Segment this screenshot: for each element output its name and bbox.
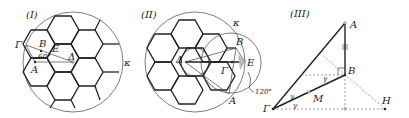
label-e: E <box>246 57 255 68</box>
figure-2-title: (II) <box>141 9 157 20</box>
label-b: B <box>347 65 355 76</box>
figure-1-title: (I) <box>26 9 38 20</box>
construction-lines <box>185 48 254 94</box>
figure-1: (I) Γ B E 60° Δ <box>14 9 131 112</box>
label-gamma: Γ <box>14 39 23 50</box>
label-kappa: κ <box>232 17 240 28</box>
figure-3: (III) A B Γ M H γ γ γ <box>262 8 391 114</box>
label-h: H <box>381 95 391 106</box>
label-gamma-angle-2: γ <box>290 93 295 101</box>
figure-3-title: (III) <box>290 8 310 19</box>
label-a: A <box>30 64 38 75</box>
label-b: B <box>235 36 243 47</box>
figure-2: (II) κ B Δ E Γ A 120° <box>141 9 272 112</box>
label-gamma: Γ <box>220 65 229 76</box>
label-a: A <box>228 95 236 106</box>
label-kappa: κ <box>123 57 131 68</box>
label-angle-120: 120° <box>255 88 272 96</box>
triangle-construction <box>272 22 387 111</box>
label-delta: Δ <box>67 51 75 62</box>
label-b: B <box>38 38 46 49</box>
diagram-canvas: (I) Γ B E 60° Δ <box>0 0 409 118</box>
label-gamma-angle-1: γ <box>323 75 328 83</box>
label-gamma-vertex: Γ <box>262 103 271 114</box>
label-m: M <box>312 93 324 104</box>
label-angle-60: 60° <box>38 53 50 61</box>
label-e: E <box>51 43 60 54</box>
label-a: A <box>349 19 357 30</box>
label-delta: Δ <box>175 54 183 65</box>
